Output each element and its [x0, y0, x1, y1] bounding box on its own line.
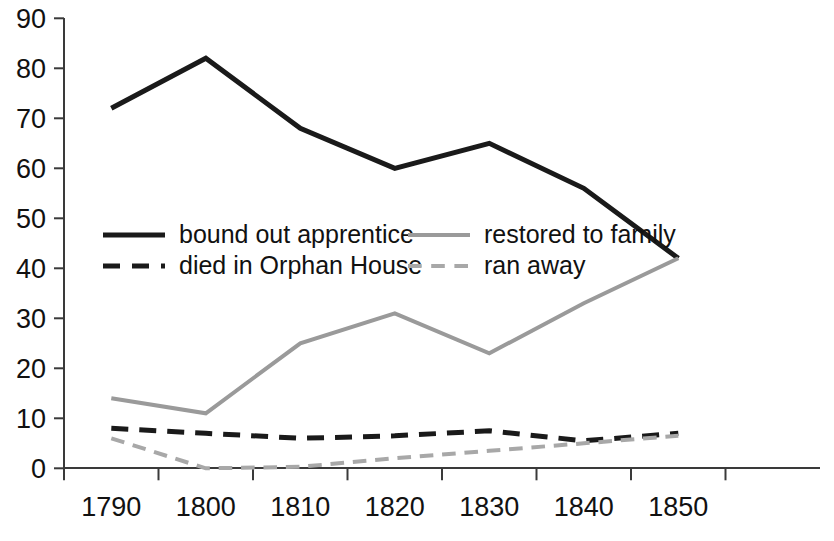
x-axis-label-1840: 1840 — [554, 492, 614, 522]
x-axis-label-1850: 1850 — [648, 492, 708, 522]
y-axis-ticks — [54, 18, 64, 468]
x-axis-label-1790: 1790 — [81, 492, 141, 522]
x-axis-label-1810: 1810 — [270, 492, 330, 522]
y-axis-label-20: 20 — [16, 354, 46, 384]
y-axis-label-90: 90 — [16, 4, 46, 34]
y-axis-label-60: 60 — [16, 154, 46, 184]
y-axis-label-30: 30 — [16, 304, 46, 334]
y-axis-tick-labels: 9080706050403020100 — [16, 4, 46, 484]
x-axis-ticks — [64, 468, 726, 480]
x-axis-tick-labels: 1790180018101820183018401850 — [81, 492, 708, 522]
y-axis-label-80: 80 — [16, 54, 46, 84]
chart-canvas: 9080706050403020100 17901800181018201830… — [0, 0, 834, 541]
y-axis-label-70: 70 — [16, 104, 46, 134]
legend-label-ran-away: ran away — [484, 251, 586, 279]
x-axis-label-1800: 1800 — [176, 492, 236, 522]
y-axis-label-0: 0 — [31, 454, 46, 484]
legend-label-bound-out-apprentice: bound out apprentice — [179, 220, 414, 248]
y-axis-label-40: 40 — [16, 254, 46, 284]
axis-group — [64, 18, 820, 468]
chart-legend: bound out apprenticerestored to familydi… — [103, 220, 676, 279]
line-chart: 9080706050403020100 17901800181018201830… — [0, 0, 834, 541]
series-line-restored-to-family — [111, 258, 678, 413]
series-line-died-in-orphan-house — [111, 428, 678, 441]
legend-label-restored-to-family: restored to family — [484, 220, 676, 248]
x-axis-label-1820: 1820 — [365, 492, 425, 522]
y-axis-label-10: 10 — [16, 404, 46, 434]
y-axis-label-50: 50 — [16, 204, 46, 234]
x-axis-label-1830: 1830 — [459, 492, 519, 522]
legend-label-died-in-orphan-house: died in Orphan House — [179, 251, 422, 279]
